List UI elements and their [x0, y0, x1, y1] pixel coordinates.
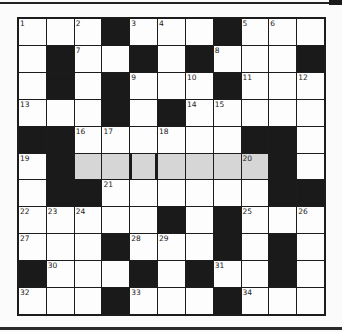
highlighted-cell[interactable] — [158, 154, 185, 180]
clue-number: 19 — [20, 154, 30, 163]
clue-number: 5 — [243, 19, 248, 28]
black-square — [297, 46, 324, 72]
answer-cell[interactable]: 28 — [130, 234, 157, 260]
black-square — [130, 261, 157, 287]
highlighted-cell[interactable] — [214, 154, 241, 180]
answer-cell[interactable] — [269, 73, 296, 99]
answer-cell[interactable] — [158, 46, 185, 72]
answer-cell[interactable] — [130, 100, 157, 126]
answer-cell[interactable] — [75, 288, 102, 314]
answer-cell[interactable]: 26 — [297, 207, 324, 233]
highlighted-cell[interactable]: 20 — [242, 154, 269, 180]
answer-cell[interactable]: 27 — [19, 234, 46, 260]
answer-cell[interactable] — [269, 288, 296, 314]
answer-cell[interactable] — [297, 288, 324, 314]
answer-cell[interactable]: 16 — [75, 127, 102, 153]
black-square — [269, 261, 296, 287]
answer-cell[interactable]: 32 — [19, 288, 46, 314]
answer-cell[interactable] — [75, 234, 102, 260]
answer-cell[interactable] — [297, 100, 324, 126]
clue-number: 26 — [298, 207, 308, 216]
answer-cell[interactable] — [297, 127, 324, 153]
answer-cell[interactable]: 17 — [102, 127, 129, 153]
answer-cell[interactable] — [75, 100, 102, 126]
answer-cell[interactable] — [102, 46, 129, 72]
answer-cell[interactable]: 24 — [75, 207, 102, 233]
answer-cell[interactable] — [242, 100, 269, 126]
answer-cell[interactable]: 5 — [242, 19, 269, 45]
highlighted-cell[interactable] — [186, 154, 213, 180]
answer-cell[interactable] — [47, 100, 74, 126]
answer-cell[interactable]: 1 — [19, 19, 46, 45]
answer-cell[interactable] — [19, 73, 46, 99]
answer-cell[interactable]: 19 — [19, 154, 46, 180]
answer-cell[interactable] — [75, 73, 102, 99]
answer-cell[interactable]: 18 — [158, 127, 185, 153]
answer-cell[interactable] — [186, 234, 213, 260]
highlighted-cell[interactable] — [130, 154, 157, 180]
clue-number: 23 — [48, 207, 58, 216]
answer-cell[interactable] — [19, 46, 46, 72]
answer-cell[interactable] — [186, 288, 213, 314]
answer-cell[interactable] — [186, 207, 213, 233]
answer-cell[interactable] — [19, 180, 46, 206]
answer-cell[interactable] — [242, 180, 269, 206]
answer-cell[interactable] — [242, 261, 269, 287]
answer-cell[interactable]: 6 — [269, 19, 296, 45]
highlighted-cell[interactable] — [102, 154, 129, 180]
answer-cell[interactable] — [47, 19, 74, 45]
clue-number: 31 — [215, 261, 225, 270]
answer-cell[interactable] — [158, 73, 185, 99]
answer-cell[interactable]: 22 — [19, 207, 46, 233]
answer-cell[interactable] — [158, 288, 185, 314]
clue-number: 18 — [159, 127, 169, 136]
answer-cell[interactable]: 33 — [130, 288, 157, 314]
answer-cell[interactable] — [242, 46, 269, 72]
answer-cell[interactable] — [214, 127, 241, 153]
answer-cell[interactable] — [158, 180, 185, 206]
answer-cell[interactable] — [269, 46, 296, 72]
top-rule — [0, 2, 331, 4]
answer-cell[interactable]: 4 — [158, 19, 185, 45]
answer-cell[interactable]: 31 — [214, 261, 241, 287]
answer-cell[interactable] — [158, 261, 185, 287]
answer-cell[interactable]: 13 — [19, 100, 46, 126]
answer-cell[interactable]: 10 — [186, 73, 213, 99]
answer-cell[interactable] — [269, 207, 296, 233]
answer-cell[interactable] — [214, 180, 241, 206]
answer-cell[interactable] — [130, 180, 157, 206]
answer-cell[interactable]: 14 — [186, 100, 213, 126]
answer-cell[interactable] — [47, 288, 74, 314]
answer-cell[interactable]: 12 — [297, 73, 324, 99]
answer-cell[interactable]: 8 — [214, 46, 241, 72]
answer-cell[interactable] — [242, 234, 269, 260]
answer-cell[interactable] — [47, 234, 74, 260]
answer-cell[interactable] — [186, 127, 213, 153]
answer-cell[interactable]: 3 — [130, 19, 157, 45]
answer-cell[interactable]: 7 — [75, 46, 102, 72]
answer-cell[interactable]: 21 — [102, 180, 129, 206]
answer-cell[interactable] — [186, 180, 213, 206]
answer-cell[interactable] — [297, 154, 324, 180]
answer-cell[interactable] — [297, 261, 324, 287]
black-square — [242, 127, 269, 153]
answer-cell[interactable] — [130, 207, 157, 233]
answer-cell[interactable] — [186, 19, 213, 45]
answer-cell[interactable] — [102, 261, 129, 287]
highlighted-cell[interactable] — [75, 154, 102, 180]
answer-cell[interactable]: 34 — [242, 288, 269, 314]
answer-cell[interactable] — [269, 100, 296, 126]
answer-cell[interactable]: 9 — [130, 73, 157, 99]
answer-cell[interactable]: 23 — [47, 207, 74, 233]
answer-cell[interactable]: 15 — [214, 100, 241, 126]
answer-cell[interactable] — [102, 207, 129, 233]
answer-cell[interactable]: 11 — [242, 73, 269, 99]
answer-cell[interactable] — [75, 261, 102, 287]
answer-cell[interactable]: 2 — [75, 19, 102, 45]
answer-cell[interactable]: 30 — [47, 261, 74, 287]
answer-cell[interactable]: 25 — [242, 207, 269, 233]
answer-cell[interactable] — [297, 234, 324, 260]
answer-cell[interactable] — [297, 19, 324, 45]
answer-cell[interactable]: 29 — [158, 234, 185, 260]
answer-cell[interactable] — [130, 127, 157, 153]
